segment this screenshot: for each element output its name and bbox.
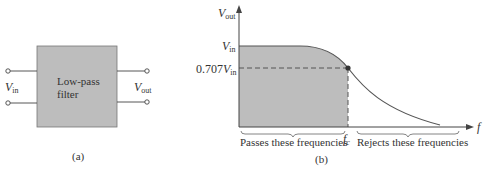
x-axis-arrow-icon <box>466 124 474 130</box>
y-tick-cutoff: 0.707Vin <box>196 62 237 77</box>
caption-a: (a) <box>72 150 85 163</box>
passband-fill <box>239 46 348 127</box>
y-tick-vin: Vin <box>222 39 236 54</box>
panel-b: Vout Vin 0.707Vin f fc Passes these freq… <box>196 5 482 166</box>
passband-label: Passes these frequencies <box>240 136 348 148</box>
stopband-label: Rejects these frequencies <box>357 136 468 148</box>
vin-label: Vin <box>5 80 19 95</box>
block-label-line1: Low-pass <box>57 75 100 87</box>
y-axis-arrow-icon <box>236 5 242 13</box>
block-label-line2: filter <box>57 88 79 100</box>
vout-label: Vout <box>134 80 152 95</box>
input-terminal-icon <box>6 69 10 73</box>
y-axis-label: Vout <box>218 6 236 21</box>
x-axis-label: f <box>477 120 482 134</box>
output-terminal-icon <box>145 69 149 73</box>
output-terminal-icon <box>145 100 149 104</box>
input-terminal-icon <box>6 101 10 105</box>
caption-b: (b) <box>315 153 328 166</box>
cutoff-point-icon <box>345 65 350 70</box>
panel-a: Low-pass filter Vin Vout (a) <box>5 46 152 163</box>
figure: Low-pass filter Vin Vout (a) Vout <box>0 0 486 177</box>
